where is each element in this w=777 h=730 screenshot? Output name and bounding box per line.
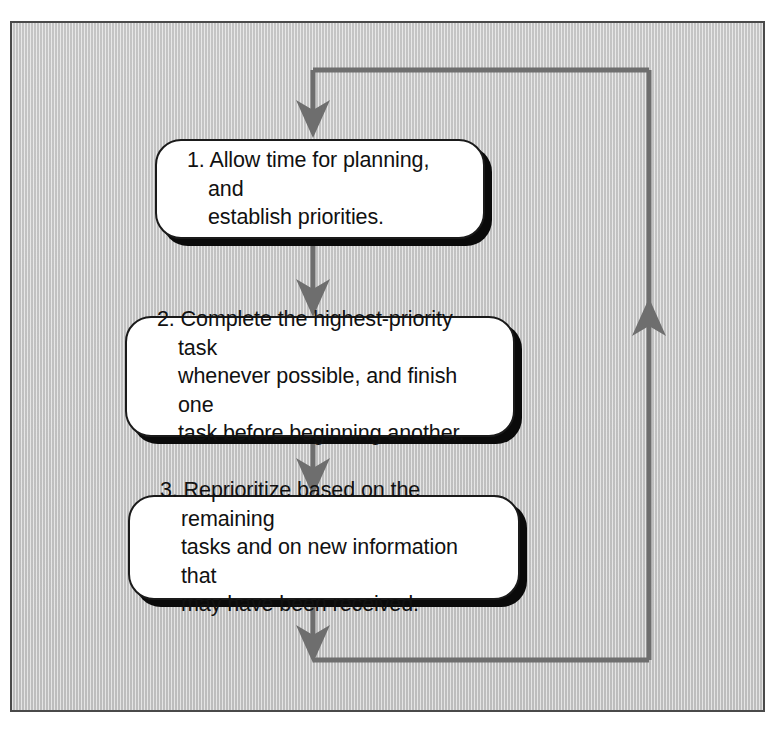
node-2-label: 2. Complete the highest-priority task wh… — [148, 305, 513, 448]
node-1-label: 1. Allow time for planning, and establis… — [178, 146, 483, 232]
node-3-label: 3. Reprioritize based on the remaining t… — [151, 476, 518, 619]
flowchart-page: 1. Allow time for planning, and establis… — [0, 0, 777, 730]
flowchart-node-step-2[interactable]: 2. Complete the highest-priority task wh… — [125, 316, 515, 437]
flowchart-node-step-3[interactable]: 3. Reprioritize based on the remaining t… — [128, 495, 520, 600]
flowchart-node-step-1[interactable]: 1. Allow time for planning, and establis… — [155, 139, 485, 239]
